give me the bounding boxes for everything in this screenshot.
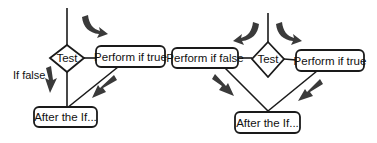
left-if-false-label: If false <box>13 69 45 81</box>
down-arrow-icon <box>45 66 57 93</box>
flowchart-canvas: Test Perform if true After the If... If … <box>0 0 377 143</box>
right-decision-label: Test <box>257 53 279 65</box>
curved-arrow-right-icon <box>276 22 302 45</box>
diagonal-arrow-left-icon <box>212 74 234 96</box>
curved-arrow-left-icon <box>233 22 259 45</box>
curved-arrow-icon <box>82 15 108 38</box>
left-true-label: Perform if true <box>94 51 167 63</box>
left-diagram: Test Perform if true After the If... If … <box>13 8 167 127</box>
left-true-return-line <box>67 67 118 108</box>
right-true-label: Perform if true <box>294 55 367 67</box>
left-merge-label: After the If... <box>34 111 97 123</box>
right-diagram: Test Perform if false Perform if true Af… <box>166 13 366 133</box>
diagonal-arrow-right-icon <box>298 79 323 101</box>
right-false-label: Perform if false <box>166 52 243 64</box>
right-merge-label: After the If... <box>236 117 299 129</box>
left-decision-label: Test <box>56 52 78 64</box>
right-false-return-line <box>225 68 268 111</box>
